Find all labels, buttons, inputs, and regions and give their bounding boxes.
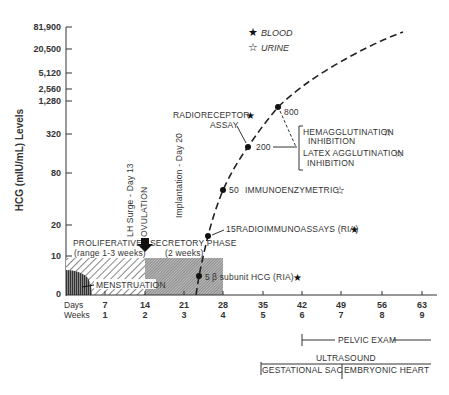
svg-text:7: 7 xyxy=(102,300,107,310)
legend: ★ BLOOD ☆ URINE xyxy=(248,26,293,53)
y-axis-tick-labels: 81,900 20,500 5,120 2,560 1,280 320 80 2… xyxy=(33,22,61,299)
svg-text:9: 9 xyxy=(419,310,424,320)
radioreceptor-star-icon: ★ xyxy=(246,110,255,121)
pt800-value: 800 xyxy=(284,107,299,117)
menstruation-label: MENSTRUATION xyxy=(96,280,166,290)
gestational-sac-label: GESTATIONAL SAC xyxy=(262,365,343,375)
point-15 xyxy=(205,233,211,239)
svg-text:14: 14 xyxy=(140,300,150,310)
legend-urine: URINE xyxy=(261,43,290,53)
radioreceptor-label: RADIORECEPTOR xyxy=(173,110,250,120)
radioreceptor-label-2: ASSAY xyxy=(210,120,239,130)
svg-text:3: 3 xyxy=(181,310,186,320)
pt5-text: β subunit HCG (RIA) xyxy=(212,272,294,282)
svg-text:1: 1 xyxy=(102,310,107,320)
point-200 xyxy=(245,144,251,150)
pt50-star-icon: ☆ xyxy=(335,184,345,196)
hemagglutination-label-2: INHIBITION xyxy=(308,136,355,146)
x-row-label-weeks: Weeks xyxy=(64,310,90,320)
y-axis-label: HCG (mIU/mL) Levels xyxy=(14,108,25,211)
latex-label-2: INHIBITION xyxy=(307,158,354,168)
svg-text:2: 2 xyxy=(142,310,147,320)
point-5 xyxy=(196,273,202,279)
hcg-chart: HCG (mIU/mL) Levels 81,900 20,500 5,120 … xyxy=(0,0,449,395)
point-50 xyxy=(220,187,226,193)
implantation-label: Implantation - Day 20 xyxy=(174,133,184,218)
embryonic-heart-label: EMBRYONIC HEART xyxy=(344,365,429,375)
ovulation-label: OVULATION xyxy=(139,187,149,237)
svg-text:35: 35 xyxy=(258,300,268,310)
pt200-value: 200 xyxy=(256,142,271,152)
latex-star-icon: ☆ xyxy=(394,148,403,159)
point-800 xyxy=(275,104,281,110)
legend-blood: BLOOD xyxy=(261,28,293,38)
svg-text:21: 21 xyxy=(179,300,189,310)
svg-text:1,280: 1,280 xyxy=(38,96,61,106)
x-axis-week-labels: 1 2 3 4 5 6 7 8 9 xyxy=(102,310,424,320)
latex-label: LATEX AGGLUTINATION xyxy=(303,148,404,158)
svg-text:56: 56 xyxy=(377,300,387,310)
x-axis-day-labels: 7 14 21 28 35 42 49 56 63 xyxy=(102,300,427,310)
pt50-text: IMMUNOENZYMETRIC xyxy=(245,185,339,195)
filled-star-icon: ★ xyxy=(248,26,258,38)
pt15-text: RADIOIMMUNOASSAYS (RIA) xyxy=(236,224,359,234)
ultrasound-range: ULTRASOUND GESTATIONAL SAC EMBRYONIC HEA… xyxy=(261,353,431,379)
pt5-value: 5 xyxy=(205,272,210,282)
proliferative-label: PROLIFERATIVE xyxy=(73,238,142,248)
pt15-arrow xyxy=(212,230,224,235)
svg-text:20: 20 xyxy=(51,220,61,230)
svg-text:81,900: 81,900 xyxy=(33,22,61,32)
svg-text:7: 7 xyxy=(338,310,343,320)
svg-text:4: 4 xyxy=(220,310,225,320)
proliferative-note: (range 1-3 weeks) xyxy=(74,248,146,258)
svg-text:63: 63 xyxy=(417,300,427,310)
svg-text:ULTRASOUND: ULTRASOUND xyxy=(316,353,376,363)
pt15-star-icon: ★ xyxy=(350,224,359,235)
svg-text:0: 0 xyxy=(56,289,61,299)
svg-text:42: 42 xyxy=(297,300,307,310)
svg-text:20,500: 20,500 xyxy=(33,44,61,54)
x-row-label-days: Days xyxy=(64,300,83,310)
svg-text:10: 10 xyxy=(51,251,61,261)
open-star-icon: ☆ xyxy=(248,41,258,53)
svg-text:2,560: 2,560 xyxy=(38,84,61,94)
radioreceptor-arrow xyxy=(237,126,246,143)
svg-text:6: 6 xyxy=(299,310,304,320)
pt5-star-icon: ★ xyxy=(293,272,302,283)
svg-text:28: 28 xyxy=(218,300,228,310)
svg-text:49: 49 xyxy=(336,300,346,310)
svg-text:320: 320 xyxy=(46,129,61,139)
hemag-star-icon: ☆ xyxy=(383,127,392,138)
lh-surge-label: LH Surge - Day 13 xyxy=(125,163,135,237)
secretory-note: (2 weeks) xyxy=(165,248,204,258)
pt15-value: 15 xyxy=(226,224,236,234)
pt50-value: 50 xyxy=(229,185,239,195)
svg-text:5,120: 5,120 xyxy=(38,68,61,78)
svg-text:8: 8 xyxy=(379,310,384,320)
secretory-label: SECRETORY PHASE xyxy=(150,238,237,248)
svg-text:80: 80 xyxy=(51,168,61,178)
pelvic-exam-range: PELVIC EXAM xyxy=(302,334,431,346)
svg-text:5: 5 xyxy=(260,310,265,320)
y-axis-ticks xyxy=(66,27,72,256)
svg-text:PELVIC EXAM: PELVIC EXAM xyxy=(338,335,396,345)
